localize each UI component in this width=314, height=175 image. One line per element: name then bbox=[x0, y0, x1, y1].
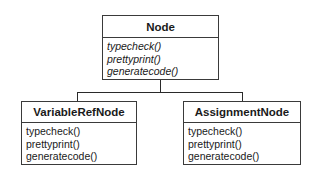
connector-left-drop bbox=[77, 92, 78, 101]
operation: generatecode() bbox=[26, 150, 136, 163]
class-assignmentnode: AssignmentNode typecheck() prettyprint()… bbox=[183, 101, 301, 165]
class-node-operations: typecheck() prettyprint() generatecode() bbox=[103, 38, 218, 78]
class-assignmentnode-operations: typecheck() prettyprint() generatecode() bbox=[184, 123, 300, 163]
operation: generatecode() bbox=[107, 65, 218, 78]
operation: typecheck() bbox=[107, 40, 218, 53]
class-variablerefnode: VariableRefNode typecheck() prettyprint(… bbox=[21, 101, 137, 165]
connector-right-drop bbox=[242, 92, 243, 101]
class-assignmentnode-name: AssignmentNode bbox=[184, 102, 300, 123]
operation: generatecode() bbox=[188, 150, 300, 163]
class-variablerefnode-name: VariableRefNode bbox=[22, 102, 136, 123]
connector-horizontal bbox=[77, 92, 243, 93]
operation: prettyprint() bbox=[107, 53, 218, 66]
class-node-name: Node bbox=[103, 16, 218, 38]
operation: prettyprint() bbox=[188, 138, 300, 151]
connector-trunk bbox=[160, 80, 161, 92]
class-variablerefnode-operations: typecheck() prettyprint() generatecode() bbox=[22, 123, 136, 163]
operation: typecheck() bbox=[188, 125, 300, 138]
class-node: Node typecheck() prettyprint() generatec… bbox=[102, 15, 219, 80]
operation: typecheck() bbox=[26, 125, 136, 138]
operation: prettyprint() bbox=[26, 138, 136, 151]
